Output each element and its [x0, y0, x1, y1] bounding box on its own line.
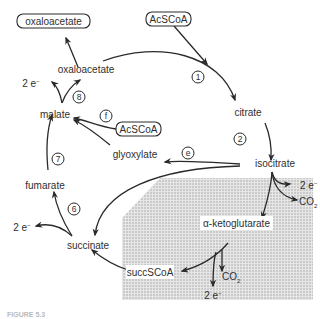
metabolite-malate: malate — [40, 109, 70, 120]
metabolite-succscoa: succSCoA — [127, 267, 174, 278]
metabolite-isocitrate: isocitrate — [255, 158, 295, 169]
metabolite-succinate: succinate — [67, 240, 110, 251]
byproduct-2e-malate: 2 e− — [22, 78, 40, 89]
step-marker-2: 2 — [234, 133, 246, 145]
arrow-oxaloacetate-export — [66, 38, 78, 67]
figure-caption: FIGURE 5.3 — [7, 311, 45, 318]
arrow-step-8-2e — [52, 82, 62, 103]
step-marker-e: e — [182, 147, 194, 159]
svg-text:1: 1 — [196, 72, 201, 82]
svg-text:6: 6 — [72, 204, 77, 214]
step-marker-8: 8 — [73, 91, 85, 103]
metabolite-acscoa-top: AcSCoA — [150, 14, 188, 25]
arrow-step-2 — [265, 123, 271, 160]
byproduct-2e-succinate: 2 e− — [13, 222, 31, 233]
metabolite-glyoxylate: glyoxylate — [113, 149, 158, 160]
metabolite-acscoa-mid: AcSCoA — [120, 124, 158, 135]
svg-text:8: 8 — [77, 92, 82, 102]
arrow-step-e — [165, 161, 240, 164]
byproduct-2e-isocitrate: 2 e− — [300, 180, 318, 191]
step-marker-1: 1 — [192, 71, 204, 83]
svg-text:2: 2 — [238, 134, 243, 144]
svg-text:2 e−: 2 e− — [22, 78, 40, 89]
mitochondrial-shaded-region — [122, 178, 313, 300]
metabolite-citrate: citrate — [234, 107, 262, 118]
arrow-acscoa-in — [174, 26, 207, 64]
arrow-step-7 — [47, 115, 52, 170]
metabolite-fumarate: fumarate — [25, 180, 65, 191]
svg-text:2 e−: 2 e− — [300, 180, 318, 191]
pathway-diagram: oxaloacetate AcSCoA AcSCoA oxaloacetate … — [0, 0, 320, 319]
step-marker-7: 7 — [52, 153, 64, 165]
step-marker-f: f — [100, 110, 112, 122]
metabolite-oxaloacetate: oxaloacetate — [58, 64, 115, 75]
svg-text:2 e−: 2 e− — [13, 222, 31, 233]
metabolite-oxaloacetate-export: oxaloacetate — [25, 16, 82, 27]
metabolite-alpha-ketoglutarate: α-ketoglutarate — [203, 218, 270, 229]
svg-text:7: 7 — [56, 154, 61, 164]
svg-text:e: e — [186, 148, 191, 158]
arrow-step-1 — [103, 52, 235, 100]
step-marker-6: 6 — [68, 203, 80, 215]
